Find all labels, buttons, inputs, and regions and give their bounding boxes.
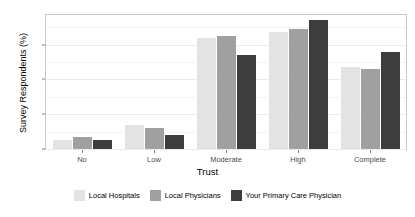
x-tick-label-moderate: Moderate bbox=[186, 155, 266, 164]
legend-swatch-icon bbox=[74, 190, 85, 201]
bar bbox=[269, 32, 288, 149]
bar bbox=[361, 69, 380, 149]
x-axis-title: Trust bbox=[0, 166, 415, 177]
legend-item[interactable]: Local Physicians bbox=[150, 190, 221, 201]
legend-item[interactable]: Local Hospitals bbox=[74, 190, 140, 201]
x-tick-label-low: Low bbox=[114, 155, 194, 164]
bar bbox=[289, 29, 308, 149]
x-tick-mark bbox=[154, 150, 155, 153]
bar bbox=[197, 38, 216, 149]
legend-swatch-icon bbox=[150, 190, 161, 201]
bar bbox=[381, 52, 400, 149]
bar bbox=[93, 140, 112, 149]
legend: Local HospitalsLocal PhysiciansYour Prim… bbox=[0, 190, 415, 201]
bar-group-no bbox=[46, 15, 118, 149]
bar bbox=[145, 128, 164, 149]
bar bbox=[217, 36, 236, 149]
x-tick-label-complete: Complete bbox=[330, 155, 410, 164]
y-tick-mark bbox=[42, 79, 45, 80]
y-tick-mark bbox=[42, 114, 45, 115]
x-tick-mark bbox=[298, 150, 299, 153]
bar bbox=[73, 137, 92, 149]
bar-group-low bbox=[118, 15, 190, 149]
legend-item[interactable]: Your Primary Care Physician bbox=[231, 190, 342, 201]
bar-group-high bbox=[262, 15, 334, 149]
bar-chart: Survey Respondents (%) 0102030 NoLowMode… bbox=[0, 0, 415, 217]
y-tick-mark bbox=[42, 149, 45, 150]
legend-label: Your Primary Care Physician bbox=[246, 191, 342, 200]
x-tick-mark bbox=[226, 150, 227, 153]
bar-group-complete bbox=[334, 15, 406, 149]
bar bbox=[165, 135, 184, 149]
y-axis-title: Survey Respondents (%) bbox=[18, 8, 28, 158]
x-tick-mark bbox=[82, 150, 83, 153]
y-tick-mark bbox=[42, 44, 45, 45]
bar bbox=[341, 67, 360, 149]
legend-label: Local Hospitals bbox=[89, 191, 140, 200]
x-tick-label-no: No bbox=[42, 155, 122, 164]
legend-swatch-icon bbox=[231, 190, 242, 201]
bar bbox=[125, 125, 144, 149]
legend-label: Local Physicians bbox=[165, 191, 221, 200]
bar bbox=[309, 20, 328, 149]
bar bbox=[237, 55, 256, 149]
bar bbox=[53, 140, 72, 149]
x-tick-label-high: High bbox=[258, 155, 338, 164]
bars-area bbox=[46, 15, 406, 149]
bar-group-moderate bbox=[190, 15, 262, 149]
x-tick-mark bbox=[370, 150, 371, 153]
